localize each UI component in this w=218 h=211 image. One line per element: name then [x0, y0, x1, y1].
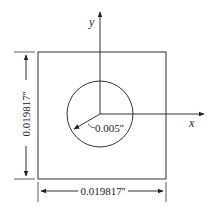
diagram-canvas: y x 0.005'' 0.019817'' 0.019817'' — [0, 0, 218, 211]
width-label: 0.019817'' — [80, 185, 125, 197]
radius-label: 0.005'' — [95, 122, 124, 134]
y-axis-label: y — [88, 15, 95, 29]
x-axis-label: x — [188, 116, 195, 130]
square-cell — [38, 52, 166, 179]
height-label: 0.019817'' — [20, 91, 32, 136]
radius-leader — [88, 124, 95, 128]
